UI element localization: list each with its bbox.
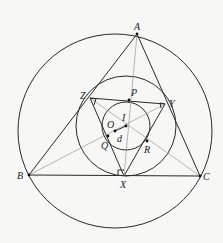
point-c [199,175,202,178]
label-c: C [203,171,210,182]
label-p: P [130,87,137,98]
point-b [28,174,31,177]
label-o: O [107,119,114,130]
label-y: Y [169,98,176,109]
geometry-diagram: A B C X Y Z P Q R I O d [0,0,223,243]
label-z: Z [80,90,86,101]
label-a: A [133,21,141,32]
segment-oi [115,126,126,131]
label-q: Q [101,140,109,151]
point-q [107,135,110,138]
label-d: d [117,133,123,144]
point-i [125,125,128,128]
label-r: R [143,144,150,155]
point-r [146,140,149,143]
label-x: X [119,179,127,190]
point-o [114,130,117,133]
point-p [128,99,131,102]
label-b: B [17,170,23,181]
line-a-x [124,34,137,176]
label-i: I [121,112,126,123]
point-a [136,33,139,36]
